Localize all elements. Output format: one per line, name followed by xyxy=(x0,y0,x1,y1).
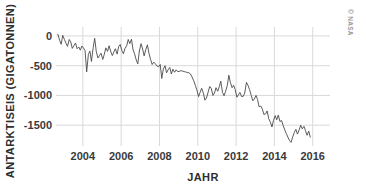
x-tick-label: 2010 xyxy=(186,150,210,162)
x-tick-label: 2014 xyxy=(262,150,287,162)
x-tick-label: 2012 xyxy=(224,150,248,162)
antarctic-ice-mass-line-chart: 2004200620082010201220142016 0-500-1000-… xyxy=(0,0,366,195)
x-tick-label: 2006 xyxy=(109,150,133,162)
y-tick-label: -500 xyxy=(30,60,52,72)
y-axis-title: ANTARKTISEIS (GIGATONNEN) xyxy=(4,4,16,178)
y-tick-label: -1500 xyxy=(24,119,52,131)
chart-screenshot: 2004200620082010201220142016 0-500-1000-… xyxy=(0,0,366,195)
y-tick-label: -1000 xyxy=(24,89,52,101)
copyright-credit: © NASA xyxy=(347,9,354,36)
x-axis-title: JAHR xyxy=(187,171,219,183)
y-tick-label: 0 xyxy=(46,30,52,42)
x-tick-label: 2008 xyxy=(147,150,171,162)
chart-background xyxy=(0,0,366,195)
x-tick-label: 2004 xyxy=(71,150,96,162)
x-tick-label: 2016 xyxy=(301,150,325,162)
